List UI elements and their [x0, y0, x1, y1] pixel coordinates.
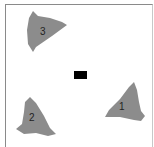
shape-3-label: 3 [40, 26, 46, 37]
shape-3: 3 [27, 11, 67, 52]
shape-1-label: 1 [119, 101, 125, 112]
shape-2-label: 2 [29, 112, 35, 123]
diagram-canvas: 3 2 1 [0, 0, 154, 147]
shape-2: 2 [16, 97, 56, 136]
center-marker [74, 71, 87, 79]
shape-1: 1 [105, 82, 145, 121]
